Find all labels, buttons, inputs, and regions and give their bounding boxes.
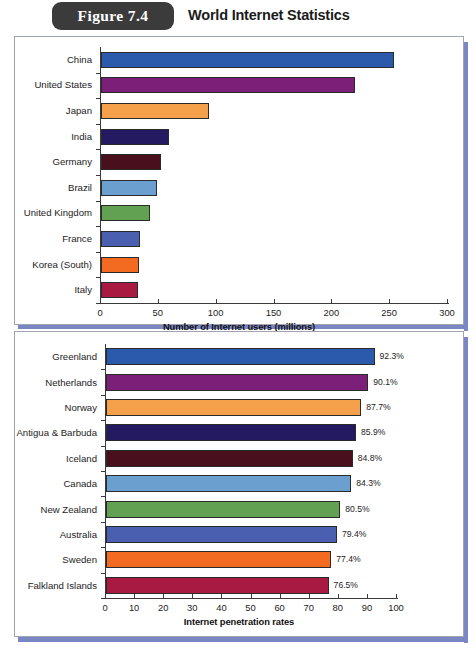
chart-panel-penetration-rates: Greenland92.3%Netherlands90.1%Norway87.7…	[14, 331, 464, 637]
bar-category-label: Iceland	[66, 450, 97, 467]
bar-row: New Zealand80.5%	[15, 501, 463, 518]
bar-value-label: 84.3%	[356, 475, 380, 492]
y-axis-tick	[96, 124, 100, 125]
y-axis-tick	[96, 201, 100, 202]
bar-category-label: Norway	[64, 399, 97, 416]
x-axis-tick	[105, 594, 106, 598]
x-axis-tick	[396, 594, 397, 598]
bar-row: Germany	[15, 154, 463, 170]
y-axis-tick	[96, 252, 100, 253]
y-axis-tick	[96, 226, 100, 227]
bar-category-label: United Kingdom	[24, 205, 92, 221]
bar	[106, 374, 368, 391]
bar-row: India	[15, 129, 463, 145]
x-axis-tick-label: 200	[311, 307, 351, 318]
x-axis-tick-label: 0	[80, 307, 120, 318]
x-axis-tick	[338, 594, 339, 598]
bar-category-label: New Zealand	[40, 501, 97, 518]
bar-category-label: Australia	[60, 526, 97, 543]
y-axis-tick	[101, 395, 105, 396]
bar-value-label: 84.8%	[358, 450, 382, 467]
bar-row: Falkland Islands76.5%	[15, 577, 463, 594]
bar-category-label: China	[67, 52, 92, 68]
x-axis-tick	[367, 594, 368, 598]
bar-category-label: Antigua & Barbuda	[16, 424, 97, 441]
y-axis-tick	[101, 446, 105, 447]
bar-row: Australia79.4%	[15, 526, 463, 543]
bar	[101, 77, 355, 93]
bar	[101, 282, 138, 298]
x-axis-tick	[158, 299, 159, 303]
bar	[101, 180, 157, 196]
y-axis-tick	[96, 277, 100, 278]
x-axis-tick	[100, 299, 101, 303]
bar	[106, 526, 337, 543]
bar	[101, 129, 169, 145]
bar-row: France	[15, 231, 463, 247]
bar-row: China	[15, 52, 463, 68]
bar-row: Antigua & Barbuda85.9%	[15, 424, 463, 441]
x-axis-line	[100, 303, 449, 304]
y-axis-tick	[96, 73, 100, 74]
bar-value-label: 90.1%	[373, 374, 397, 391]
bar-row: United Kingdom	[15, 205, 463, 221]
bar-row: Canada84.3%	[15, 475, 463, 492]
x-axis-tick	[134, 594, 135, 598]
x-axis-tick-label: 300	[427, 307, 467, 318]
panel-shadow-right-penetration	[464, 337, 468, 643]
x-axis-tick-label: 250	[369, 307, 409, 318]
bar-category-label: Greenland	[52, 348, 97, 365]
x-axis-tick	[216, 299, 217, 303]
figure-header: Figure 7.4 World Internet Statistics	[0, 0, 476, 40]
bar-value-label: 76.5%	[334, 577, 358, 594]
bar	[106, 475, 351, 492]
bar-category-label: Netherlands	[45, 374, 97, 391]
bar-row: Iceland84.8%	[15, 450, 463, 467]
x-axis-tick	[192, 594, 193, 598]
bar	[101, 231, 140, 247]
y-axis-tick	[101, 522, 105, 523]
bar-value-label: 77.4%	[336, 551, 360, 568]
bar-category-label: Brazil	[68, 180, 92, 196]
bar-value-label: 80.5%	[345, 501, 369, 518]
bar	[106, 348, 375, 365]
y-axis-tick	[96, 175, 100, 176]
bar-row: Sweden77.4%	[15, 551, 463, 568]
bar-category-label: Sweden	[62, 551, 97, 568]
x-axis-tick	[280, 594, 281, 598]
y-axis-tick	[101, 369, 105, 370]
bar-value-label: 92.3%	[380, 348, 404, 365]
y-axis-tick	[101, 547, 105, 548]
bar-category-label: Falkland Islands	[28, 577, 97, 594]
x-axis-tick	[447, 299, 448, 303]
bar-category-label: Italy	[74, 282, 92, 298]
bar-row: Japan	[15, 103, 463, 119]
y-axis-tick	[101, 573, 105, 574]
bar-row: Brazil	[15, 180, 463, 196]
bar	[101, 257, 139, 273]
figure-title: World Internet Statistics	[188, 7, 350, 23]
bar-category-label: Germany	[53, 154, 92, 170]
x-axis-tick	[163, 594, 164, 598]
x-axis-title: Internet penetration rates	[15, 616, 463, 627]
bar-row: Norway87.7%	[15, 399, 463, 416]
x-axis-tick	[251, 594, 252, 598]
bar-category-label: France	[62, 231, 92, 247]
bar-row: United States	[15, 77, 463, 93]
bar	[101, 52, 394, 68]
bar-category-label: Canada	[63, 475, 97, 492]
bar	[106, 551, 331, 568]
x-axis-tick-label: 150	[254, 307, 294, 318]
plot-area-internet-users: ChinaUnited StatesJapanIndiaGermanyBrazi…	[15, 37, 463, 324]
x-axis-line	[105, 598, 398, 599]
bar-category-label: India	[71, 129, 92, 145]
bar	[106, 501, 340, 518]
x-axis-tick-label: 100	[196, 307, 236, 318]
bar	[106, 399, 361, 416]
x-axis-tick-label: 50	[138, 307, 178, 318]
panel-shadow-right-users	[464, 42, 468, 331]
chart-panel-internet-users: ChinaUnited StatesJapanIndiaGermanyBrazi…	[14, 36, 464, 325]
x-axis-tick	[389, 299, 390, 303]
y-axis-tick	[96, 149, 100, 150]
x-axis-tick	[274, 299, 275, 303]
